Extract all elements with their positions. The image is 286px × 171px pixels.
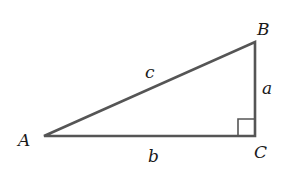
right-angle-marker xyxy=(238,119,255,136)
vertex-label-c: C xyxy=(254,142,267,162)
side-label-a: a xyxy=(262,78,272,98)
vertex-label-b: B xyxy=(256,19,270,39)
vertex-label-a: A xyxy=(16,130,30,150)
side-label-b: b xyxy=(148,146,159,166)
triangle-svg: A B C a b c xyxy=(0,0,286,171)
side-label-c: c xyxy=(145,62,155,82)
right-triangle-diagram: A B C a b c xyxy=(0,0,286,171)
triangle-abc xyxy=(44,42,255,136)
